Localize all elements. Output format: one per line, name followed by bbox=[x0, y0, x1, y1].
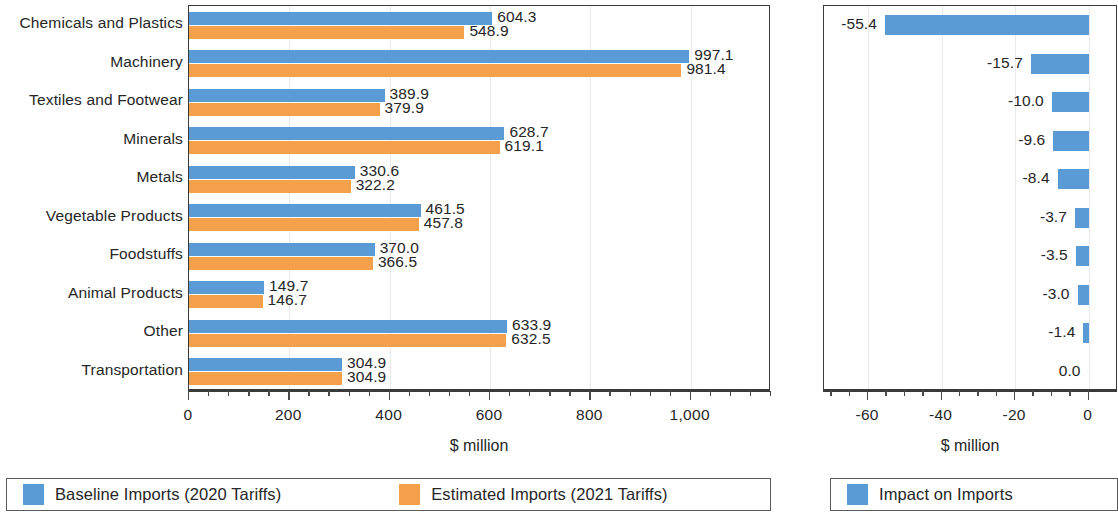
value-label: -10.0 bbox=[964, 92, 1044, 110]
x-tick-minor bbox=[977, 391, 978, 396]
value-label: -3.5 bbox=[988, 246, 1068, 264]
x-tick-label: 600 bbox=[449, 406, 529, 424]
value-label: -8.4 bbox=[970, 169, 1050, 187]
left-chart-legend: Baseline Imports (2020 Tariffs)Estimated… bbox=[6, 478, 771, 511]
x-tick-major bbox=[389, 391, 390, 400]
value-label: 366.5 bbox=[378, 253, 417, 271]
x-tick-minor bbox=[609, 391, 610, 396]
right-chart-legend: Impact on Imports bbox=[830, 478, 1118, 511]
x-tick-minor bbox=[268, 391, 269, 396]
legend-label: Estimated Imports (2021 Tariffs) bbox=[431, 485, 667, 504]
x-tick-minor bbox=[409, 391, 410, 396]
x-tick-minor bbox=[650, 391, 651, 396]
x-tick-minor bbox=[308, 391, 309, 396]
legend-entry[interactable]: Estimated Imports (2021 Tariffs) bbox=[399, 484, 667, 505]
x-tick-label: -20 bbox=[974, 406, 1054, 424]
x-tick-minor bbox=[248, 391, 249, 396]
x-tick-minor bbox=[449, 391, 450, 396]
value-label: 619.1 bbox=[505, 137, 544, 155]
category-label: Animal Products bbox=[68, 284, 183, 302]
x-tick-label: 200 bbox=[248, 406, 328, 424]
x-tick-label: -40 bbox=[901, 406, 981, 424]
x-tick-minor bbox=[208, 391, 209, 396]
x-tick-minor bbox=[1051, 391, 1052, 396]
x-tick-minor bbox=[885, 391, 886, 396]
value-label: -9.6 bbox=[965, 131, 1045, 149]
x-tick-major bbox=[941, 391, 942, 400]
x-tick-minor bbox=[959, 391, 960, 396]
x-tick-minor bbox=[429, 391, 430, 396]
x-tick-minor bbox=[630, 391, 631, 396]
value-label: -15.7 bbox=[943, 54, 1023, 72]
category-label: Minerals bbox=[123, 130, 183, 148]
x-tick-major bbox=[188, 391, 189, 400]
value-label: 548.9 bbox=[469, 22, 508, 40]
value-label: -55.4 bbox=[797, 15, 877, 33]
x-axis-title: $ million bbox=[188, 437, 770, 455]
legend-label: Impact on Imports bbox=[879, 485, 1013, 504]
imports-by-sector-chart: Chemicals and PlasticsMachineryTextiles … bbox=[0, 0, 800, 513]
x-tick-major bbox=[1088, 391, 1089, 400]
x-tick-major bbox=[1014, 391, 1015, 400]
x-tick-major bbox=[690, 391, 691, 400]
bar bbox=[1076, 246, 1089, 266]
value-label: -3.7 bbox=[987, 208, 1067, 226]
legend-label: Baseline Imports (2020 Tariffs) bbox=[55, 485, 281, 504]
legend-swatch-impact bbox=[847, 484, 868, 505]
value-label: -1.4 bbox=[995, 323, 1075, 341]
x-tick-major bbox=[489, 391, 490, 400]
x-tick-minor bbox=[830, 391, 831, 396]
x-tick-minor bbox=[549, 391, 550, 396]
x-tick-minor bbox=[469, 391, 470, 396]
x-tick-minor bbox=[1032, 391, 1033, 396]
x-tick-label: 0 bbox=[148, 406, 228, 424]
x-tick-minor bbox=[328, 391, 329, 396]
x-tick-minor bbox=[228, 391, 229, 396]
x-tick-minor bbox=[349, 391, 350, 396]
x-tick-major bbox=[288, 391, 289, 400]
x-tick-minor bbox=[996, 391, 997, 396]
right-plot-area: -55.4-15.7-10.0-9.6-8.4-3.7-3.5-3.0-1.40… bbox=[823, 5, 1117, 390]
data-value-labels: 604.3548.9997.1981.4389.9379.9628.7619.1… bbox=[188, 5, 800, 390]
legend-entry[interactable]: Impact on Imports bbox=[847, 484, 1013, 505]
x-tick-minor bbox=[509, 391, 510, 396]
x-tick-major bbox=[589, 391, 590, 400]
x-tick-minor bbox=[849, 391, 850, 396]
x-tick-minor bbox=[529, 391, 530, 396]
category-label: Textiles and Footwear bbox=[29, 91, 183, 109]
bar bbox=[1031, 54, 1089, 74]
bar bbox=[1083, 323, 1088, 343]
value-label: 981.4 bbox=[686, 60, 725, 78]
category-label: Chemicals and Plastics bbox=[19, 14, 183, 32]
x-tick-major bbox=[867, 391, 868, 400]
x-tick-label: 1,000 bbox=[650, 406, 730, 424]
gridline bbox=[868, 6, 869, 389]
x-tick-minor bbox=[1069, 391, 1070, 396]
category-label: Foodstuffs bbox=[109, 245, 183, 263]
legend-entry[interactable]: Baseline Imports (2020 Tariffs) bbox=[23, 484, 281, 505]
value-label: -3.0 bbox=[990, 285, 1070, 303]
category-label: Vegetable Products bbox=[46, 207, 183, 225]
x-axis-title: $ million bbox=[823, 437, 1117, 455]
x-tick-label: 0 bbox=[1048, 406, 1118, 424]
value-label: 379.9 bbox=[385, 99, 424, 117]
category-label: Transportation bbox=[82, 361, 183, 379]
x-tick-minor bbox=[569, 391, 570, 396]
legend-swatch-estimated bbox=[399, 484, 420, 505]
value-label: 146.7 bbox=[268, 291, 307, 309]
category-label: Metals bbox=[136, 168, 183, 186]
x-tick-minor bbox=[670, 391, 671, 396]
category-label: Other bbox=[143, 322, 183, 340]
bar bbox=[885, 15, 1089, 35]
value-label: 632.5 bbox=[511, 330, 550, 348]
value-label: 304.9 bbox=[347, 368, 386, 386]
value-label: 457.8 bbox=[424, 214, 463, 232]
x-tick-minor bbox=[369, 391, 370, 396]
bar bbox=[1058, 169, 1089, 189]
impact-on-imports-chart: -55.4-15.7-10.0-9.6-8.4-3.7-3.5-3.0-1.40… bbox=[820, 0, 1118, 513]
gridline bbox=[1089, 6, 1090, 389]
x-tick-minor bbox=[922, 391, 923, 396]
x-tick-label: 400 bbox=[349, 406, 429, 424]
legend-swatch-baseline bbox=[23, 484, 44, 505]
category-label: Machinery bbox=[110, 53, 183, 71]
